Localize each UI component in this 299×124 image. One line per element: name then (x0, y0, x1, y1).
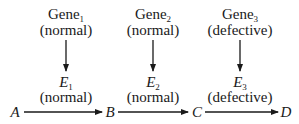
metabolite-a: A (8, 104, 22, 120)
gene-1-status: (normal) (36, 22, 96, 38)
gene-2-status: (normal) (123, 22, 183, 38)
enzyme-1-status: (normal) (36, 89, 96, 105)
metabolite-c: C (190, 104, 204, 120)
enzyme-3-status: (defective) (205, 89, 275, 105)
metabolite-d: D (279, 104, 293, 120)
metabolite-b: B (103, 104, 117, 120)
enzyme-2-status: (normal) (123, 89, 183, 105)
gene-3-status: (defective) (205, 22, 275, 38)
